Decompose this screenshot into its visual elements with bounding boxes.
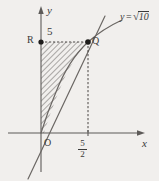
y-axis-label: y bbox=[47, 5, 52, 16]
point-label-r: R bbox=[27, 35, 34, 45]
equation-equals-sign: = bbox=[126, 12, 132, 22]
equation-lhs: y bbox=[120, 12, 124, 22]
x-axis-arrowhead bbox=[137, 130, 145, 135]
fraction-denominator: 2 bbox=[79, 150, 86, 159]
y-axis-arrowhead bbox=[38, 6, 43, 14]
shaded-region bbox=[41, 42, 88, 133]
y-axis-tick-label: 5 bbox=[47, 26, 53, 37]
point-marker-Q bbox=[85, 39, 91, 45]
point-label-q: Q bbox=[92, 36, 99, 46]
math-figure: y x O R Q 5 5 2 y = √ 10 bbox=[0, 0, 159, 181]
origin-label: O bbox=[44, 138, 51, 148]
point-marker-R bbox=[38, 39, 43, 44]
x-axis-label: x bbox=[142, 138, 147, 149]
radical-expression: √ 10 bbox=[133, 11, 149, 22]
radicand: 10 bbox=[138, 11, 149, 22]
fraction-numerator: 5 bbox=[79, 139, 86, 148]
x-axis-tick-label-fraction: 5 2 bbox=[78, 139, 87, 159]
curve-equation-label: y = √ 10 bbox=[120, 11, 149, 22]
